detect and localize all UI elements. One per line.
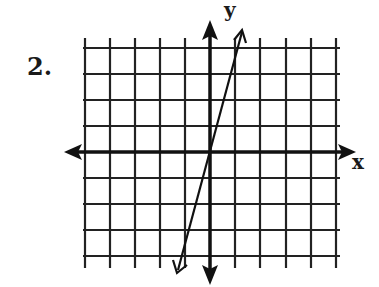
coordinate-grid	[0, 0, 379, 287]
